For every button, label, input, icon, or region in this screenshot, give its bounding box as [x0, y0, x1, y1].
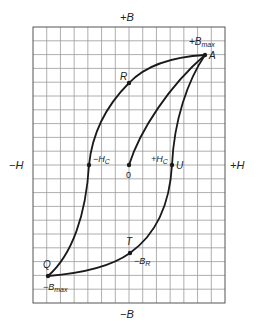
label-neg-bmax: −Bmax — [43, 282, 68, 293]
label-q: Q — [43, 259, 51, 270]
point-neg-hc — [87, 163, 91, 167]
axis-label-bottom: −B — [120, 308, 134, 320]
point-origin — [127, 163, 131, 167]
point-q — [46, 274, 50, 278]
label-a: A — [208, 50, 216, 61]
point-u — [170, 163, 174, 167]
axis-label-right: +H — [230, 159, 244, 171]
label-u: U — [176, 160, 184, 171]
label-r: R — [120, 71, 127, 82]
axis-label-left: −H — [9, 159, 23, 171]
hysteresis-diagram: +B −B −H +H A +Bmax R −HC 0 +HC U T −BR … — [0, 0, 259, 327]
point-r — [127, 81, 131, 85]
point-a — [203, 53, 207, 57]
point-t — [128, 251, 132, 255]
label-neg-hc: −HC — [93, 154, 111, 165]
label-neg-br: −BR — [134, 256, 150, 267]
label-pos-hc: +HC — [151, 154, 169, 165]
axis-label-top: +B — [120, 11, 134, 23]
label-origin: 0 — [126, 170, 131, 180]
label-t: T — [126, 236, 133, 247]
